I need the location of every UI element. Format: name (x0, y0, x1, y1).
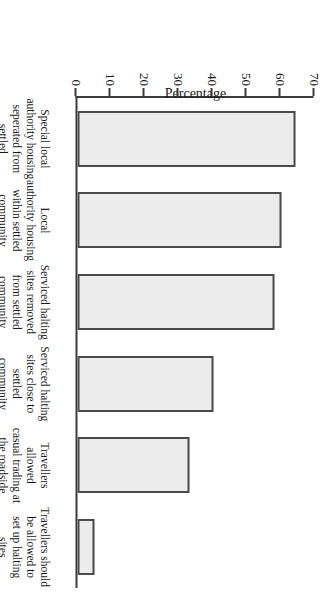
figure-frame: Percentage 010203040506070 Special local… (0, 0, 331, 616)
y-axis-tick-label: 50 (239, 52, 252, 86)
bar (77, 274, 274, 330)
category-label: Serviced haltingsites removedfrom settle… (0, 261, 51, 343)
bar-slot (77, 98, 315, 180)
y-axis-tick-label: 0 (69, 52, 82, 86)
category-label-line: settled (9, 343, 23, 425)
category-label-line: sites removed (23, 261, 37, 343)
category-label: Travellers shouldbe allowed toset up hal… (0, 506, 51, 588)
bar-chart: Percentage 010203040506070 Special local… (0, 0, 331, 616)
category-label-line: community (0, 180, 9, 262)
y-axis-tick-label: 10 (103, 52, 116, 86)
bar-slot (77, 506, 315, 588)
y-axis-tick-label: 30 (171, 52, 184, 86)
bar (77, 111, 295, 167)
bar-slot (77, 343, 315, 425)
y-axis-tick (142, 88, 144, 96)
category-label-line: Travellers should (37, 506, 51, 588)
category-label-line: community (0, 261, 9, 343)
category-label-line: casual trading at (9, 425, 23, 507)
category-label-line: community (0, 343, 9, 425)
bar-slot (77, 261, 315, 343)
rotated-page: Percentage 010203040506070 Special local… (0, 0, 331, 616)
plot-area: Percentage 010203040506070 Special local… (75, 96, 313, 588)
y-axis-tick (244, 88, 246, 96)
category-label-line: set up halting sites (0, 506, 23, 588)
y-axis-tick (176, 88, 178, 96)
bar-slot (77, 425, 315, 507)
category-label-line: settled community (0, 98, 9, 180)
category-label-line: authority housing (23, 180, 37, 262)
bar (77, 437, 189, 493)
y-axis-tick-label: 70 (307, 52, 320, 86)
category-label-line: from settled (9, 261, 23, 343)
category-label-line: sites close to (23, 343, 37, 425)
category-label-line: Serviced halting (37, 343, 51, 425)
category-label-line: Special local (37, 98, 51, 180)
bar (77, 356, 213, 412)
y-axis-tick (108, 88, 110, 96)
category-label-line: Local (37, 180, 51, 262)
y-axis-tick-label: 20 (137, 52, 150, 86)
bar-series (77, 98, 315, 588)
y-axis-tick (210, 88, 212, 96)
category-label-line: Serviced halting (37, 261, 51, 343)
category-label: Special localauthority housingseperated … (0, 98, 51, 180)
category-label: Localauthority housingwithin settledcomm… (0, 180, 51, 262)
bar (77, 519, 94, 575)
bar (77, 192, 281, 248)
category-label-line: be allowed to (23, 506, 37, 588)
y-axis-tick-label: 60 (273, 52, 286, 86)
category-label-line: within settled (9, 180, 23, 262)
category-label: Travellers allowedcasual trading atthe r… (0, 425, 51, 507)
y-axis-tick-label: 40 (205, 52, 218, 86)
category-label-line: Travellers allowed (23, 425, 51, 507)
category-label-line: the roadside (0, 425, 9, 507)
bar-slot (77, 180, 315, 262)
y-axis-tick (312, 88, 314, 96)
category-label: Serviced haltingsites close tosettledcom… (0, 343, 51, 425)
y-axis-tick (278, 88, 280, 96)
y-axis-tick (74, 88, 76, 96)
category-label-line: authority housing (23, 98, 37, 180)
category-label-line: seperated from (9, 98, 23, 180)
